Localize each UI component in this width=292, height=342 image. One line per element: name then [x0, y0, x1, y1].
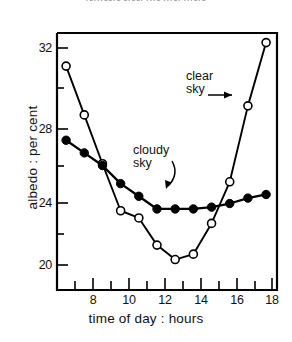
- data-point-clear-sky: [62, 62, 70, 70]
- data-point-clear-sky: [80, 111, 88, 119]
- data-point-clear-sky: [208, 219, 216, 227]
- annotation-clear-sky: clear sky: [186, 70, 213, 96]
- data-point-clear-sky: [153, 241, 161, 249]
- x-tick-label-18: 18: [260, 293, 284, 307]
- data-point-cloudy-sky: [262, 190, 270, 198]
- data-point-cloudy-sky: [207, 203, 215, 211]
- y-axis-ticks: [57, 48, 68, 265]
- data-point-cloudy-sky: [153, 205, 161, 213]
- data-point-cloudy-sky: [98, 161, 106, 169]
- data-point-cloudy-sky: [244, 194, 252, 202]
- data-point-cloudy-sky: [189, 205, 197, 213]
- data-point-clear-sky: [189, 250, 197, 258]
- x-tick-label-8: 8: [81, 293, 105, 307]
- y-axis-title: albedo : per cent: [25, 68, 40, 248]
- data-point-clear-sky: [226, 178, 234, 186]
- data-point-clear-sky: [244, 102, 252, 110]
- data-point-cloudy-sky: [80, 149, 88, 157]
- albedo-time-of-day-chart: rerrreere ereer rrre rrrer rrrere: [0, 0, 292, 342]
- annotation-cloudy-sky: cloudy sky: [133, 144, 169, 170]
- data-point-cloudy-sky: [171, 205, 179, 213]
- data-point-clear-sky: [262, 39, 270, 47]
- data-point-cloudy-sky: [62, 136, 70, 144]
- x-tick-label-14: 14: [189, 293, 213, 307]
- data-point-cloudy-sky: [135, 192, 143, 200]
- x-axis-ticks: [75, 278, 272, 290]
- data-point-clear-sky: [171, 256, 179, 264]
- y-tick-label-20: 20: [22, 258, 52, 272]
- y-tick-label-32: 32: [22, 41, 52, 55]
- x-tick-label-16: 16: [225, 293, 249, 307]
- data-point-cloudy-sky: [116, 179, 124, 187]
- data-point-cloudy-sky: [226, 199, 234, 207]
- data-point-clear-sky: [135, 214, 143, 222]
- data-point-clear-sky: [117, 207, 125, 215]
- x-tick-label-10: 10: [117, 293, 141, 307]
- x-tick-label-12: 12: [153, 293, 177, 307]
- x-axis-title: time of day : hours: [0, 311, 292, 326]
- annotation-arrows: [165, 92, 232, 190]
